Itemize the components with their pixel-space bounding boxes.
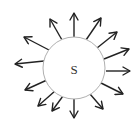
field-line-arrow [38, 91, 55, 106]
field-line-arrow [24, 37, 49, 50]
field-line-arrow [25, 80, 47, 90]
field-line-arrow [97, 32, 117, 48]
magnetic-field-diagram: S [0, 0, 140, 127]
field-line-arrow [52, 96, 63, 111]
field-line-arrow [50, 19, 62, 40]
field-line-arrow [104, 49, 129, 59]
pole-label: S [70, 62, 77, 77]
field-line-arrow [90, 94, 103, 109]
field-line-arrow [86, 18, 101, 40]
field-line-arrow [101, 83, 123, 94]
field-line-arrow [15, 61, 44, 64]
